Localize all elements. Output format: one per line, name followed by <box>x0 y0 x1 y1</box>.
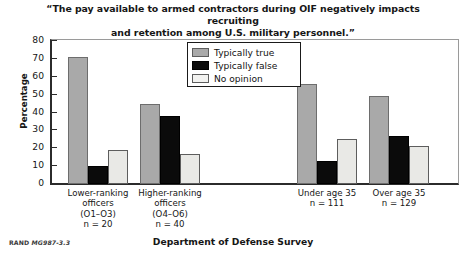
legend-item-true[interactable]: Typically true <box>192 46 300 59</box>
source-note-id: MG987-3.3 <box>32 239 71 246</box>
chart-legend: Typically trueTypically falseNo opinion <box>187 42 301 87</box>
x-axis-category-label: Over age 35n = 129 <box>351 188 447 209</box>
y-tick-label-30: 30 <box>2 123 44 134</box>
y-tick-label-40: 40 <box>2 106 44 117</box>
legend-swatch-icon <box>192 61 209 70</box>
category-label-line: Over age 35 <box>351 188 447 198</box>
y-tick-label-0: 0 <box>2 177 44 188</box>
legend-swatch-icon <box>192 48 209 57</box>
source-note: RAND MG987-3.3 <box>9 239 70 246</box>
legend-item-label: Typically true <box>214 48 274 58</box>
chart-title: “The pay available to armed contractors … <box>26 3 440 40</box>
category-label-line: (O4–O6) <box>122 209 218 219</box>
category-label-line: officers <box>122 198 218 208</box>
bar <box>389 136 409 184</box>
x-axis-category-label: Higher-rankingofficers(O4–O6)n = 40 <box>122 188 218 230</box>
y-tick-label-60: 60 <box>2 70 44 81</box>
legend-item-false[interactable]: Typically false <box>192 59 300 72</box>
chart-title-line-2: and retention among U.S. military person… <box>26 27 440 39</box>
legend-item-label: No opinion <box>214 74 263 84</box>
y-tick-label-50: 50 <box>2 88 44 99</box>
y-tick-label-20: 20 <box>2 141 44 152</box>
bar <box>369 96 389 184</box>
source-note-prefix: RAND <box>9 239 29 246</box>
legend-item-label: Typically false <box>214 61 277 71</box>
category-label-line: Higher-ranking <box>122 188 218 198</box>
category-label-line: n = 40 <box>122 219 218 229</box>
chart-title-line-1: “The pay available to armed contractors … <box>26 3 440 27</box>
y-tick-label-70: 70 <box>2 52 44 63</box>
bar <box>409 146 429 184</box>
legend-item-none[interactable]: No opinion <box>192 72 300 85</box>
legend-swatch-icon <box>192 74 209 83</box>
y-tick-label-10: 10 <box>2 159 44 170</box>
y-tick-label-80: 80 <box>2 34 44 45</box>
category-label-line: n = 129 <box>351 198 447 208</box>
